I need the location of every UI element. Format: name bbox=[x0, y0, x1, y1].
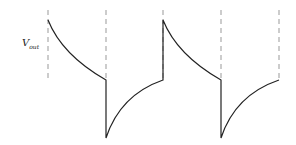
vout-waveform bbox=[48, 20, 279, 138]
waveform-diagram bbox=[0, 0, 296, 145]
